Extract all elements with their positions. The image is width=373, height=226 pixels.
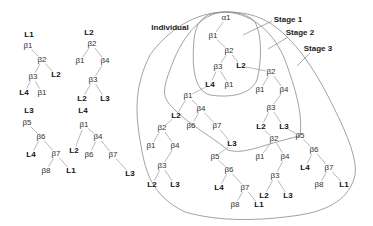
tree-edge bbox=[266, 180, 272, 191]
leaf-node: L3 bbox=[227, 140, 236, 148]
function-node: β8 bbox=[314, 181, 323, 189]
function-node: β7 bbox=[212, 122, 221, 130]
function-node: β5 bbox=[22, 119, 31, 127]
function-node: β6 bbox=[186, 122, 195, 130]
diagram-lines bbox=[0, 0, 373, 226]
function-node: β1 bbox=[255, 153, 264, 161]
function-node: β4 bbox=[280, 153, 289, 161]
function-node: β1 bbox=[183, 92, 192, 100]
stage2-pointer bbox=[268, 37, 288, 49]
function-node: β6 bbox=[224, 166, 233, 174]
stage3-pointer bbox=[297, 53, 310, 66]
function-node: β8 bbox=[230, 201, 239, 209]
leaf-node: L2 bbox=[171, 112, 180, 120]
leaf-node: L3 bbox=[170, 181, 179, 189]
function-node: β3 bbox=[270, 172, 279, 180]
function-node: β1 bbox=[224, 81, 233, 89]
function-node: β3 bbox=[266, 104, 275, 112]
function-node: β1 bbox=[146, 142, 155, 150]
leaf-node: L4 bbox=[300, 164, 309, 172]
leaf-node: L2 bbox=[77, 95, 86, 103]
leaf-node: L1 bbox=[339, 181, 348, 189]
function-node: β1 bbox=[23, 42, 32, 50]
function-node: β1 bbox=[79, 121, 88, 129]
leaf-node: L2 bbox=[236, 62, 245, 70]
genetic-program-tree-diagram: Individual Stage 1 Stage 2 Stage 3 α1 L1… bbox=[0, 0, 373, 226]
leaf-node: L1 bbox=[66, 167, 75, 175]
leaf-node: L3 bbox=[283, 192, 292, 200]
function-node: β4 bbox=[279, 86, 288, 94]
function-node: β4 bbox=[100, 57, 109, 65]
function-node: β5 bbox=[295, 132, 304, 140]
function-node: β1 bbox=[37, 89, 46, 97]
function-node: β2 bbox=[269, 135, 278, 143]
function-node: β4 bbox=[93, 133, 102, 141]
leaf-node: L4 bbox=[205, 81, 214, 89]
function-node: β7 bbox=[108, 151, 117, 159]
tree-edge bbox=[219, 147, 228, 154]
function-node: β7 bbox=[324, 164, 333, 172]
function-node: β3 bbox=[28, 73, 37, 81]
leaf-node: L1 bbox=[254, 201, 263, 209]
function-node: β6 bbox=[309, 146, 318, 154]
individual-label: Individual bbox=[151, 24, 188, 32]
leaf-node: L4 bbox=[214, 184, 223, 192]
function-node: β3 bbox=[157, 162, 166, 170]
stage3-label: Stage 3 bbox=[304, 45, 332, 53]
function-node: β7 bbox=[240, 184, 249, 192]
leaf-node: L3 bbox=[279, 123, 288, 131]
tree-edge bbox=[76, 130, 82, 147]
function-node: β1 bbox=[208, 32, 217, 40]
function-node: β2 bbox=[37, 56, 46, 64]
function-node: β5 bbox=[210, 153, 219, 161]
leaf-node: L2 bbox=[69, 147, 78, 155]
root-alpha-node: α1 bbox=[221, 14, 230, 22]
function-node: β1 bbox=[75, 57, 84, 65]
leaf-node: L2 bbox=[84, 29, 93, 37]
tree-edge bbox=[179, 100, 186, 111]
function-node: β6 bbox=[36, 133, 45, 141]
leaf-node: L2 bbox=[51, 71, 60, 79]
function-node: β6 bbox=[84, 151, 93, 159]
function-node: β4 bbox=[196, 105, 205, 113]
leaf-node: L2 bbox=[256, 123, 265, 131]
leaf-node: L2 bbox=[259, 192, 268, 200]
leaf-node: L4 bbox=[26, 151, 35, 159]
leaf-node: L3 bbox=[100, 95, 109, 103]
function-node: β8 bbox=[41, 167, 50, 175]
leaf-node: L3 bbox=[125, 170, 134, 178]
tree-edge bbox=[192, 87, 205, 94]
tree-edge bbox=[246, 67, 266, 71]
stage2-label: Stage 2 bbox=[286, 29, 314, 37]
function-node: β4 bbox=[170, 142, 179, 150]
leaf-node: L3 bbox=[24, 107, 33, 115]
function-node: β1 bbox=[255, 86, 264, 94]
leaf-node: L2 bbox=[147, 181, 156, 189]
function-node: β2 bbox=[224, 47, 233, 55]
function-node: β7 bbox=[51, 150, 60, 158]
leaf-node: L4 bbox=[19, 89, 28, 97]
tree-edge bbox=[166, 119, 172, 124]
stage1-label: Stage 1 bbox=[274, 16, 302, 24]
function-node: β3 bbox=[213, 63, 222, 71]
leaf-node: L1 bbox=[24, 31, 33, 39]
function-node: β2 bbox=[266, 68, 275, 76]
leaf-node: L4 bbox=[78, 107, 87, 115]
function-node: β3 bbox=[88, 76, 97, 84]
function-node: β2 bbox=[157, 124, 166, 132]
function-node: β2 bbox=[87, 40, 96, 48]
